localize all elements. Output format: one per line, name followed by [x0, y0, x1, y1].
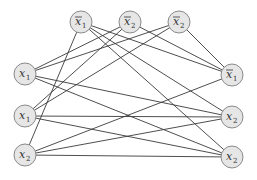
- graph-diagram: x1x2x2x1x1x2x1x2x2: [0, 0, 257, 180]
- edge-L2-R3: [25, 116, 232, 157]
- node-L3: x2: [14, 144, 36, 166]
- node-label: x: [19, 67, 26, 80]
- node-T1: x1: [70, 11, 92, 33]
- nodes-layer: x1x2x2x1x1x2x1x2x2: [14, 11, 243, 168]
- node-subscript: 2: [233, 157, 237, 165]
- node-subscript: 2: [131, 22, 135, 30]
- node-T3: x2: [168, 11, 190, 33]
- node-L1: x1: [14, 63, 36, 85]
- node-subscript: 1: [26, 116, 30, 124]
- edge-L1-R2: [25, 74, 232, 117]
- edge-L1-R3: [25, 74, 232, 157]
- edge-L3-R3: [25, 155, 232, 157]
- node-subscript: 2: [180, 22, 184, 30]
- node-label: x: [226, 110, 233, 123]
- node-label: x: [226, 150, 233, 163]
- node-R1: x1: [221, 64, 243, 86]
- node-subscript: 1: [233, 75, 237, 83]
- node-subscript: 1: [26, 74, 30, 82]
- node-subscript: 2: [233, 117, 237, 125]
- edges-layer: [25, 22, 232, 157]
- edge-T1-R3: [81, 22, 232, 157]
- edge-T1-L3: [25, 22, 81, 155]
- edge-L3-R2: [25, 117, 232, 155]
- edge-L3-R1: [25, 75, 232, 155]
- node-T2: x2: [119, 11, 141, 33]
- node-R3: x2: [221, 146, 243, 168]
- node-label: x: [19, 148, 26, 161]
- node-R2: x2: [221, 106, 243, 128]
- node-subscript: 1: [82, 22, 86, 30]
- node-label: x: [19, 109, 26, 122]
- node-subscript: 2: [26, 155, 30, 163]
- node-L2: x1: [14, 105, 36, 127]
- edge-L2-R2: [25, 116, 232, 117]
